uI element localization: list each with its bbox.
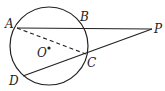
circle-o [10, 7, 88, 85]
label-p: P [153, 22, 163, 36]
dashed-segment-ac [17, 28, 86, 54]
secant-apb [17, 28, 152, 29]
label-d: D [8, 74, 19, 88]
geometry-diagram: A B C D P O [0, 0, 165, 91]
center-point-o [47, 46, 50, 49]
label-a: A [4, 17, 14, 31]
label-o: O [37, 46, 47, 60]
label-b: B [79, 10, 89, 24]
label-c: C [87, 56, 96, 70]
